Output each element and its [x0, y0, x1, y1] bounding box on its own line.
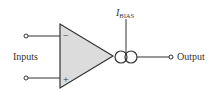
ota-diagram: − + Inputs IBIAS Output	[0, 0, 217, 93]
inputs-label-text: Inputs	[13, 51, 38, 62]
noninverting-input-terminal	[24, 76, 28, 80]
output-label-text: Output	[177, 51, 205, 62]
diagram-svg: − + Inputs IBIAS Output	[0, 0, 217, 93]
inverting-input-terminal	[24, 34, 28, 38]
inverting-sign: −	[63, 30, 69, 41]
bias-label: IBIAS	[115, 7, 135, 19]
noninverting-sign: +	[63, 74, 69, 85]
output-label: Output	[177, 51, 205, 62]
inputs-label: Inputs	[13, 51, 38, 62]
output-terminal	[169, 55, 173, 59]
bias-label-sub: BIAS	[119, 12, 134, 19]
